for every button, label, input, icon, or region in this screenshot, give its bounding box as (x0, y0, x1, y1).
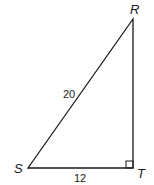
triangle-rst (28, 19, 133, 168)
triangle-diagram: R S T 20 12 (0, 0, 154, 185)
side-length-st: 12 (74, 172, 86, 184)
vertex-label-s: S (14, 161, 23, 176)
vertex-label-r: R (130, 2, 139, 17)
side-length-sr: 20 (63, 88, 75, 100)
right-angle-marker (126, 161, 133, 168)
vertex-label-t: T (137, 166, 146, 181)
